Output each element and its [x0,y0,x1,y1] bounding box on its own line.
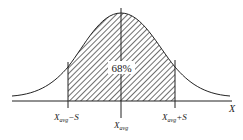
percent-label: 68% [111,62,131,74]
label-xavg-plus-s: Xavg+S [161,112,187,123]
label-xavg: Xavg [113,120,128,131]
label-xavg-minus-s: Xavg−S [53,112,79,123]
x-axis-label: X [228,103,236,114]
normal-distribution-diagram: 68% X Xavg−S Xavg Xavg+S [0,0,243,140]
